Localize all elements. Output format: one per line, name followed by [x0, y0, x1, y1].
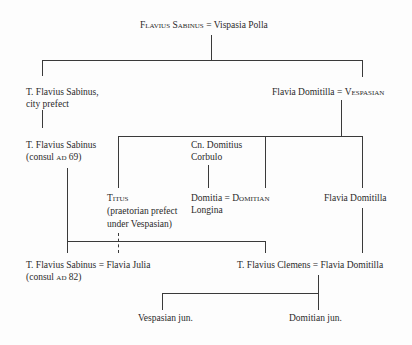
- name-vespasian: Vespasian: [345, 87, 385, 97]
- title-under-vespasian: under Vespasian): [107, 218, 177, 231]
- node-sabinus-consul-69: T. Flavius Sabinus (consul AD 69): [26, 139, 96, 163]
- line-corbulo-down: [208, 165, 209, 188]
- node-flavius-sabinus-vispasia-polla: Flavius Sabinus = Vispasia Polla: [140, 19, 268, 31]
- node-titus: Titus (praetorian prefect under Vespasia…: [107, 192, 177, 231]
- marriage-sign: =: [206, 20, 211, 30]
- node-domitia-domitian: Domitia = Domitian Longina: [191, 192, 269, 216]
- name-vespasian-jun: Vespasian jun.: [138, 313, 193, 323]
- name-t-flavius-sabinus: T. Flavius Sabinus: [26, 139, 96, 151]
- node-corbulo: Cn. Domitius Corbulo: [191, 139, 242, 163]
- name-vispasia-polla: Vispasia Polla: [214, 20, 268, 30]
- line-to-domitian: [265, 136, 266, 188]
- name-flavia-julia: Flavia Julia: [106, 260, 150, 270]
- title-consul-82: (consul AD 82): [26, 271, 150, 283]
- node-clemens-domitilla: T. Flavius Clemens = Flavia Domitilla: [237, 259, 383, 271]
- node-vespasian-jun: Vespasian jun.: [138, 312, 193, 324]
- node-domitilla-vespasian: Flavia Domitilla = Vespasian: [272, 86, 384, 98]
- name-domitian: Domitian: [232, 193, 269, 203]
- marriage-sign: =: [99, 260, 104, 270]
- name-flavia-domitilla: Flavia Domitilla: [324, 193, 387, 203]
- line-gen3-bar: [67, 241, 266, 242]
- node-sabinus-city-prefect: T. Flavius Sabinus, city prefect: [26, 86, 99, 110]
- dashed-line-titus-julia: [118, 233, 119, 253]
- title-city-prefect: city prefect: [26, 98, 99, 110]
- line-domitilla-down: [362, 208, 363, 253]
- name-longina: Longina: [191, 204, 269, 216]
- line-gen4-bar: [162, 293, 319, 294]
- node-domitian-jun: Domitian jun.: [289, 312, 342, 324]
- name-corbulo: Corbulo: [191, 151, 242, 163]
- line-gen0-down: [211, 35, 212, 60]
- marriage-sign: =: [313, 260, 318, 270]
- marriage-sign: =: [337, 87, 342, 97]
- line-to-domitilla-vespasian: [362, 60, 363, 77]
- line-vespasian-down: [341, 100, 342, 136]
- title-consul-69: (consul AD 69): [26, 151, 96, 163]
- name-cn-domitius: Cn. Domitius: [191, 139, 242, 151]
- name-titus: Titus: [107, 192, 177, 205]
- name-flavia-domitilla: Flavia Domitilla: [321, 260, 384, 270]
- line-gen1-bar: [42, 60, 363, 61]
- line-gen2-bar: [118, 136, 363, 137]
- title-praetorian-prefect: (praetorian prefect: [107, 205, 177, 218]
- name-t-flavius-clemens: T. Flavius Clemens: [237, 260, 310, 270]
- name-t-flavius-sabinus: T. Flavius Sabinus,: [26, 86, 99, 98]
- name-flavius-sabinus: Flavius Sabinus: [140, 20, 204, 30]
- line-prefect-down: [42, 110, 43, 128]
- line-to-titus: [118, 136, 119, 188]
- marriage-sign: =: [225, 193, 230, 203]
- line-to-flavia-domitilla: [362, 136, 363, 188]
- line-to-vespasian-jun: [162, 293, 163, 310]
- name-domitia: Domitia: [191, 193, 222, 203]
- line-to-clemens: [265, 241, 266, 253]
- name-t-flavius-sabinus: T. Flavius Sabinus: [26, 260, 96, 270]
- node-flavia-domitilla-gen2: Flavia Domitilla: [324, 192, 387, 204]
- name-flavia-domitilla: Flavia Domitilla: [272, 87, 335, 97]
- name-domitian-jun: Domitian jun.: [289, 313, 342, 323]
- node-sabinus-julia: T. Flavius Sabinus = Flavia Julia (consu…: [26, 259, 150, 283]
- line-to-sabinus-prefect: [42, 60, 43, 76]
